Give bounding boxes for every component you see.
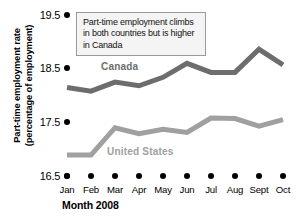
chart-container: Part-time employment rate(percentage of … (0, 0, 302, 218)
x-tick-label-oct: Oct (266, 184, 300, 195)
x-tick-dot-may (160, 173, 166, 179)
x-tick-dot-jan (64, 173, 70, 179)
x-tick-dot-jul (208, 173, 214, 179)
x-tick-dot-apr (136, 173, 142, 179)
callout-line-1: Part-time employment climbs (83, 17, 194, 27)
callout-line-3: in Canada (83, 40, 122, 50)
series-label-united-states: United States (107, 146, 174, 157)
x-tick-dot-aug (232, 173, 238, 179)
x-tick-dot-mar (112, 173, 118, 179)
x-tick-dot-oct (280, 173, 286, 179)
x-tick-dot-sept (256, 173, 262, 179)
series-line-united-states (67, 118, 283, 155)
series-label-canada: Canada (101, 61, 138, 72)
x-axis-title: Month 2008 (62, 199, 119, 211)
annotation-callout: Part-time employment climbs in both coun… (76, 12, 206, 56)
callout-line-2: in both countries but is higher (83, 28, 194, 38)
x-tick-dot-feb (88, 173, 94, 179)
x-tick-dot-jun (184, 173, 190, 179)
